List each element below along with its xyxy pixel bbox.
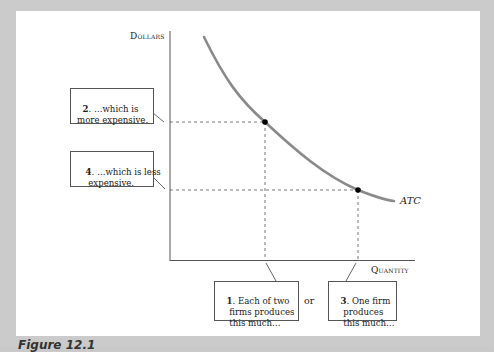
- leader-callout-4: [153, 177, 165, 189]
- callout-more-expensive: 2. …which is more expensive.: [70, 88, 154, 124]
- leader-callout-2: [153, 113, 164, 122]
- atc-curve-label: ATC: [400, 195, 421, 206]
- callout-less-expensive: 4. …which is less expensive.: [70, 151, 154, 187]
- or-label: or: [304, 295, 314, 306]
- callout-4-text: . …which is less expensive.: [80, 167, 161, 188]
- callout-2-text: . …which is more expensive.: [77, 104, 148, 125]
- callout-two-firms: 1. Each of two firms produces this much…: [214, 281, 299, 321]
- y-axis-label: Dollars: [130, 31, 164, 41]
- figure-caption: Figure 12.1: [18, 339, 95, 351]
- leader-callout-1: [266, 263, 276, 281]
- one-firm-point: [355, 187, 361, 193]
- two-firms-point: [262, 119, 268, 125]
- x-axis-label: Quantity: [371, 265, 409, 275]
- leader-callout-3: [346, 263, 356, 281]
- callout-one-firm: 3. One firm produces this much…: [328, 281, 397, 321]
- atc-curve: [204, 37, 394, 201]
